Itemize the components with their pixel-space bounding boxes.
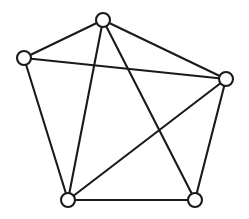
- edge-top-to-bottom-right: [103, 20, 195, 200]
- bottom-left-vertex[interactable]: [61, 193, 75, 207]
- graph-figure: [0, 0, 249, 219]
- edge-top-to-bottom-left: [68, 20, 103, 200]
- edge-left-to-bottom-left: [24, 58, 68, 200]
- edge-right-to-bottom-left: [68, 79, 226, 200]
- edge-top-to-right: [103, 20, 226, 79]
- bottom-right-vertex[interactable]: [188, 193, 202, 207]
- edge-top-to-left: [24, 20, 103, 58]
- edge-right-to-bottom-right: [195, 79, 226, 200]
- top-vertex[interactable]: [96, 13, 110, 27]
- right-vertex[interactable]: [219, 72, 233, 86]
- graph-canvas: [0, 0, 249, 219]
- edge-layer: [24, 20, 226, 200]
- left-vertex[interactable]: [17, 51, 31, 65]
